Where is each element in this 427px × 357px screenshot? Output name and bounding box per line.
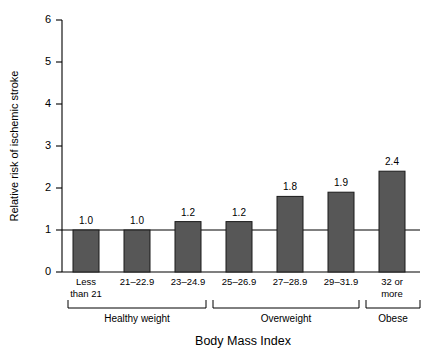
bar-value-label: 1.9 bbox=[334, 177, 348, 188]
bar[interactable] bbox=[379, 171, 405, 272]
x-category-label-line2: more bbox=[381, 288, 403, 299]
bars-group bbox=[73, 171, 405, 272]
bar[interactable] bbox=[277, 196, 303, 272]
x-category-label: 27–28.9 bbox=[273, 276, 307, 287]
bar-chart: Relative risk of ischemic stroke 0 1 2 3… bbox=[0, 0, 427, 357]
bar[interactable] bbox=[328, 192, 354, 272]
x-axis-category-labels: Less than 21 21–22.9 23–24.9 25–26.9 27–… bbox=[70, 276, 403, 299]
y-axis-title: Relative risk of ischemic stroke bbox=[8, 71, 20, 222]
bar-value-label: 2.4 bbox=[385, 156, 399, 167]
y-tick-label-2: 2 bbox=[45, 181, 51, 193]
y-tick-label-5: 5 bbox=[45, 55, 51, 67]
y-tick-label-1: 1 bbox=[45, 223, 51, 235]
group-label-healthy-weight: Healthy weight bbox=[104, 313, 170, 324]
x-category-label-line2: than 21 bbox=[70, 288, 102, 299]
x-axis-title: Body Mass Index bbox=[195, 334, 292, 348]
bar[interactable] bbox=[226, 222, 252, 272]
x-category-label: 23–24.9 bbox=[171, 276, 205, 287]
chart-canvas: Relative risk of ischemic stroke 0 1 2 3… bbox=[0, 0, 427, 357]
bar-value-label: 1.0 bbox=[130, 215, 144, 226]
y-tick-label-4: 4 bbox=[45, 97, 51, 109]
bar[interactable] bbox=[175, 222, 201, 272]
bar[interactable] bbox=[73, 230, 99, 272]
group-label-overweight: Overweight bbox=[261, 313, 312, 324]
bar-value-label: 1.2 bbox=[181, 207, 195, 218]
group-brackets: Healthy weight Overweight Obese bbox=[68, 300, 420, 324]
x-category-label: Less bbox=[76, 276, 96, 287]
x-category-label: 21–22.9 bbox=[120, 276, 154, 287]
y-tick-label-0: 0 bbox=[45, 265, 51, 277]
group-bracket-obese bbox=[366, 300, 420, 308]
bar-value-label: 1.0 bbox=[79, 215, 93, 226]
bar-value-label: 1.2 bbox=[232, 207, 246, 218]
y-axis-ticks: 0 1 2 3 4 5 6 bbox=[45, 13, 62, 277]
x-category-label: 32 or bbox=[381, 276, 403, 287]
group-label-obese: Obese bbox=[378, 313, 408, 324]
group-bracket-overweight bbox=[213, 300, 359, 308]
y-tick-label-6: 6 bbox=[45, 13, 51, 25]
x-category-label: 29–31.9 bbox=[324, 276, 358, 287]
bar-value-label: 1.8 bbox=[283, 181, 297, 192]
x-category-label: 25–26.9 bbox=[222, 276, 256, 287]
group-bracket-healthy-weight bbox=[68, 300, 206, 308]
bar[interactable] bbox=[124, 230, 150, 272]
y-tick-label-3: 3 bbox=[45, 139, 51, 151]
